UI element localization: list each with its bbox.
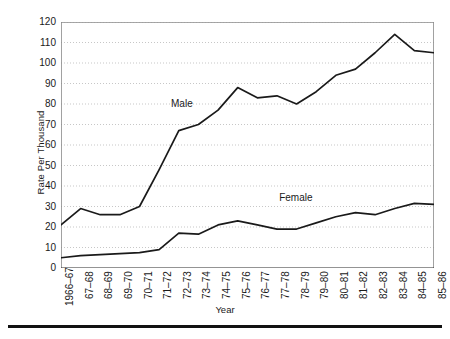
x-tick-label: 73–74 [202, 271, 212, 299]
x-tick-label: 74–75 [222, 271, 232, 299]
x-tick-label: 78–79 [301, 271, 311, 299]
y-tick-label: 50 [0, 161, 56, 171]
x-tick-label: 70–71 [144, 271, 154, 299]
x-tick-label: 77–78 [281, 271, 291, 299]
plot-area [61, 22, 434, 268]
bottom-divider-rule [8, 325, 442, 328]
x-tick-label: 1966–67 [65, 267, 75, 306]
chart-figure: Rate Per Thousand 0102030405060708090100… [0, 0, 450, 339]
y-tick-label: 30 [0, 202, 56, 212]
x-tick-label: 67–68 [85, 271, 95, 299]
x-tick-label: 75–76 [242, 271, 252, 299]
series-annotation-male: Male [171, 98, 193, 109]
series-annotation-female: Female [279, 192, 312, 203]
y-tick-label: 10 [0, 243, 56, 253]
y-tick-label: 100 [0, 58, 56, 68]
x-axis-tick-labels: 1966–6767–6868–6969–7070–7171–7272–7373–… [0, 272, 450, 332]
x-tick-label: 76–77 [261, 271, 271, 299]
x-tick-label: 79–80 [320, 271, 330, 299]
x-tick-label: 71–72 [163, 271, 173, 299]
x-tick-label: 84–85 [418, 271, 428, 299]
series-line-female [61, 203, 434, 257]
x-tick-label: 80–81 [340, 271, 350, 299]
y-tick-label: 120 [0, 17, 56, 27]
y-tick-label: 60 [0, 140, 56, 150]
y-tick-label: 80 [0, 99, 56, 109]
x-tick-label: 81–82 [359, 271, 369, 299]
x-tick-label: 83–84 [399, 271, 409, 299]
chart-svg [61, 22, 434, 268]
y-tick-label: 20 [0, 222, 56, 232]
y-tick-label: 110 [0, 38, 56, 48]
x-tick-label: 82–83 [379, 271, 389, 299]
x-tick-label: 72–73 [183, 271, 193, 299]
x-tick-label: 69–70 [124, 271, 134, 299]
x-tick-label: 68–69 [104, 271, 114, 299]
y-tick-label: 90 [0, 79, 56, 89]
y-tick-label: 40 [0, 181, 56, 191]
x-tick-label: 85–86 [438, 271, 448, 299]
x-axis-title: Year [0, 304, 450, 315]
y-tick-label: 70 [0, 120, 56, 130]
